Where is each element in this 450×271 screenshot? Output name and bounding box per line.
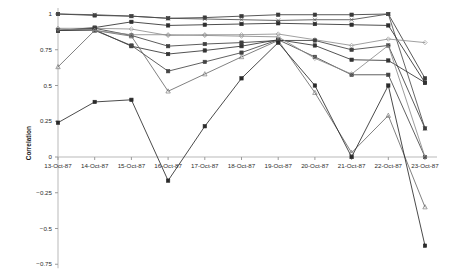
data-point-marker [313, 13, 316, 16]
series-group-series-10 [56, 41, 426, 247]
data-point-marker [240, 77, 243, 80]
series-line-series-2 [58, 14, 425, 128]
y-tick-label: 0 [49, 153, 53, 160]
data-point-marker [350, 48, 353, 51]
data-point-marker [277, 22, 280, 25]
data-point-marker [387, 73, 390, 76]
data-point-marker [166, 179, 169, 182]
x-tick-label: 21-Oct-87 [338, 162, 366, 169]
data-point-marker [130, 20, 133, 23]
data-point-marker [240, 51, 243, 54]
data-point-marker [93, 14, 96, 17]
chart-canvas: 10.750.50.250−0.25−0.5−0.7513-Oct-8714-O… [0, 0, 450, 271]
data-point-marker [130, 98, 133, 101]
data-point-marker [203, 49, 206, 52]
data-point-marker [313, 84, 316, 87]
data-point-marker [313, 39, 316, 42]
data-point-marker [240, 41, 243, 44]
data-point-marker [313, 44, 316, 47]
correlation-line-chart: 10.750.50.250−0.25−0.5−0.7513-Oct-8714-O… [0, 0, 450, 271]
x-tick-label: 17-Oct-87 [191, 162, 219, 169]
y-tick-label: 1 [49, 10, 53, 17]
y-tick-label: 0.75 [40, 46, 53, 53]
y-tick-label: −0.25 [36, 189, 52, 196]
series-group-series-7 [56, 29, 426, 159]
x-tick-label: 15-Oct-87 [118, 162, 146, 169]
x-tick-label: 14-Oct-87 [81, 162, 109, 169]
data-point-marker [423, 244, 426, 247]
x-tick-label: 19-Oct-87 [264, 162, 292, 169]
data-point-marker [387, 24, 390, 27]
series-line-series-10 [58, 43, 425, 246]
data-point-marker [423, 127, 426, 130]
y-tick-label: 0.5 [43, 82, 52, 89]
y-axis-title: Correlation [25, 126, 32, 160]
series-line-series-8 [58, 30, 425, 207]
data-point-marker [423, 81, 426, 84]
y-tick-label: −0.75 [36, 260, 52, 267]
y-tick-label: −0.5 [40, 225, 53, 232]
data-point-marker [240, 44, 243, 47]
data-point-marker [350, 58, 353, 61]
data-point-marker [240, 22, 243, 25]
series-group-series-2 [56, 12, 427, 130]
x-tick-label: 18-Oct-87 [228, 162, 256, 169]
x-tick-label: 22-Oct-87 [375, 162, 403, 169]
x-tick-label: 20-Oct-87 [301, 162, 329, 169]
x-tick-label: 13-Oct-87 [44, 162, 72, 169]
data-point-marker [350, 155, 353, 158]
data-point-marker [203, 23, 206, 26]
data-point-marker [350, 13, 353, 16]
data-point-marker [166, 52, 169, 55]
data-point-marker [203, 60, 206, 63]
data-point-marker [277, 41, 280, 44]
y-tick-label: 0.25 [40, 117, 53, 124]
data-point-marker [56, 121, 59, 124]
data-point-marker [277, 13, 280, 16]
data-point-marker [313, 22, 316, 25]
data-point-marker [93, 100, 96, 103]
data-point-marker [203, 42, 206, 45]
data-point-marker [423, 77, 426, 80]
series-line-series-7 [58, 30, 425, 157]
data-point-marker [240, 14, 243, 17]
data-point-marker [387, 84, 390, 87]
data-point-marker [166, 70, 169, 73]
x-tick-label: 23-Oct-87 [411, 162, 439, 169]
data-point-marker [166, 24, 169, 27]
data-point-marker [130, 44, 133, 47]
data-point-marker [166, 44, 169, 47]
data-point-marker [203, 125, 206, 128]
series-line-series-9 [58, 29, 425, 157]
data-point-marker [387, 59, 390, 62]
data-point-marker [350, 23, 353, 26]
